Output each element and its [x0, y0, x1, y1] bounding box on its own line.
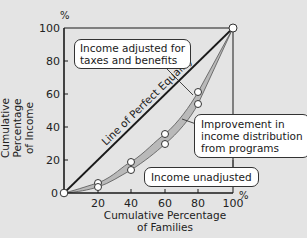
point-unadjusted-20 — [95, 184, 102, 191]
y-tick-20: 20 — [46, 154, 60, 167]
point-adjusted-80 — [195, 89, 202, 96]
improvement-label-line3: from programs — [201, 142, 303, 154]
y-unit: % — [60, 10, 70, 21]
x-axis-title: Cumulative Percentage of Families — [95, 209, 235, 233]
y-title-line2: of Income — [23, 73, 35, 183]
point-unadjusted-80 — [195, 101, 202, 108]
point-unadjusted-60 — [162, 141, 169, 148]
unadjusted-income-label: Income unadjusted — [144, 167, 259, 187]
point-origin — [60, 189, 68, 197]
improvement-label-line2: income distribution — [201, 130, 303, 142]
point-end — [229, 24, 237, 32]
y-title-line1: Cumulative Percentage — [0, 73, 23, 183]
y-tick-60: 60 — [46, 88, 60, 101]
point-adjusted-40 — [128, 159, 135, 166]
improvement-label: Improvement in income distribution from … — [194, 114, 307, 158]
adjusted-income-label: Income adjusted for taxes and benefits — [74, 39, 191, 69]
y-tick-100: 100 — [39, 22, 60, 35]
point-adjusted-60 — [162, 131, 169, 138]
y-axis-title: Cumulative Percentage of Income — [0, 73, 35, 183]
point-unadjusted-40 — [128, 167, 135, 174]
y-tick-80: 80 — [46, 55, 60, 68]
y-tick-0: 0 — [51, 187, 58, 200]
improvement-label-line1: Improvement in — [201, 118, 303, 130]
x-title-line2: of Families — [95, 221, 235, 233]
x-unit: % — [239, 190, 249, 201]
y-tick-40: 40 — [46, 121, 60, 134]
adjusted-label-line1: Income adjusted for — [80, 42, 185, 54]
unadjusted-label-text: Income unadjusted — [151, 171, 252, 183]
x-title-line1: Cumulative Percentage — [95, 209, 235, 221]
adjusted-label-line2: taxes and benefits — [80, 54, 185, 66]
